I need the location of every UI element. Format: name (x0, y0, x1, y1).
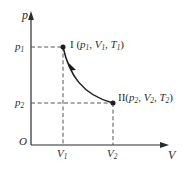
tick-label-v2-sub: 2 (114, 153, 118, 161)
state-2-p-main: p (129, 91, 135, 103)
tick-label-p1-main: p (15, 40, 21, 52)
tick-label-v2: V2 (107, 148, 117, 159)
state-2-p-sub: 2 (135, 97, 139, 105)
p-axis-arrowhead (28, 11, 34, 20)
tick-label-p1-sub: 1 (21, 46, 25, 54)
pv-diagram-figure: p V O p1 p2 V1 V2 I (p1, V1, T1) II(p2, … (0, 0, 182, 172)
state-1-t-sub: 1 (117, 44, 121, 52)
state-2-t-sub: 2 (166, 97, 170, 105)
p-axis (28, 11, 34, 145)
tick-label-p2-sub: 2 (21, 102, 25, 110)
tick-label-v1-sub: 1 (64, 153, 68, 161)
isotherm-curve (63, 47, 113, 103)
state-2-close-paren: ) (169, 91, 173, 103)
tick-label-v1: V1 (57, 148, 67, 159)
v-axis-label: V (168, 149, 175, 161)
state-1-v-sub: 1 (101, 44, 105, 52)
state-2-v-sub: 2 (150, 97, 154, 105)
v-axis (31, 142, 169, 148)
tick-label-p2-main: p (15, 96, 21, 108)
state-1-p-main: p (80, 38, 86, 50)
state-1-close-paren: ) (120, 38, 124, 50)
p-axis-label: p (22, 9, 28, 21)
tick-label-p1: p1 (15, 41, 24, 52)
state-2-t-main: T (159, 91, 165, 103)
state-1-t-main: T (111, 38, 117, 50)
state-point-2-marker (111, 101, 116, 106)
state-1-roman: I (70, 38, 74, 50)
diagram-canvas (0, 0, 182, 172)
state-label-2: II(p2, V2, T2) (118, 92, 173, 103)
state-1-p-sub: 1 (86, 44, 90, 52)
origin-label: O (19, 136, 27, 147)
state-point-1-marker (61, 45, 66, 50)
tick-label-p2: p2 (15, 97, 24, 108)
tick-label-v2-main: V (107, 147, 114, 159)
tick-label-v1-main: V (57, 147, 64, 159)
state-label-1: I (p1, V1, T1) (70, 39, 124, 50)
